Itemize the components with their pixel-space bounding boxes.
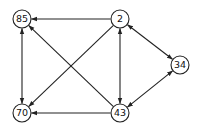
node-label-34: 34 bbox=[171, 56, 189, 74]
graph-diagram: 852347043 bbox=[0, 0, 202, 130]
node-label-43: 43 bbox=[111, 104, 129, 122]
node-label-70: 70 bbox=[13, 104, 31, 122]
nodes bbox=[13, 10, 189, 122]
node-label-85: 85 bbox=[13, 10, 31, 28]
node-label-2: 2 bbox=[111, 10, 129, 28]
edge-43-to-34 bbox=[127, 71, 172, 107]
edge-2-to-34 bbox=[128, 25, 173, 59]
edges bbox=[22, 19, 173, 113]
